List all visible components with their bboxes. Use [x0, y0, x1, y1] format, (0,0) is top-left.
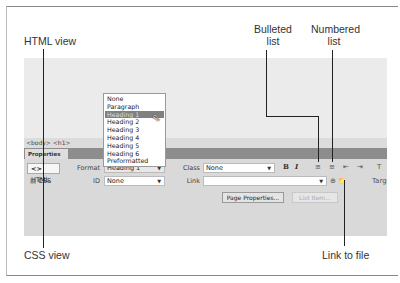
class-select[interactable]: None ▼: [203, 163, 275, 173]
properties-tab[interactable]: Properties: [25, 149, 68, 159]
callout-html-view: HTML view: [24, 35, 76, 47]
target-label: Targ: [372, 176, 387, 186]
format-label: Format: [74, 163, 100, 173]
leader-line-bulleted-c: [318, 116, 319, 162]
properties-panel: <> HTML ▤ CSS Format Heading 1 ▼ ID None…: [24, 159, 387, 236]
callout-numbered-line1: Numbered: [311, 23, 357, 35]
class-select-value: None: [206, 164, 223, 172]
link-label: Link: [176, 176, 200, 186]
callout-numbered-list: Numbered list: [311, 23, 357, 47]
title-label: T: [377, 162, 381, 172]
outdent-icon[interactable]: ⇤: [343, 162, 349, 172]
leader-line-html-css: [43, 49, 44, 248]
format-option-heading-3[interactable]: Heading 3: [105, 126, 164, 134]
numbered-list-icon[interactable]: ≡: [329, 162, 335, 172]
list-item-button[interactable]: List Item...: [292, 192, 338, 203]
callout-css-view: CSS view: [24, 249, 70, 261]
callout-bulleted-line2: list: [254, 35, 292, 47]
bold-button[interactable]: B: [283, 162, 289, 172]
callout-link-to-file: Link to file: [322, 249, 369, 261]
browse-folder-icon[interactable]: 📁: [338, 176, 347, 186]
class-label: Class: [176, 163, 200, 173]
format-option-heading-4[interactable]: Heading 4: [105, 134, 164, 142]
chevron-down-icon: ▼: [157, 177, 161, 185]
page-properties-button[interactable]: Page Properties...: [222, 192, 284, 203]
chevron-down-icon: ▼: [319, 177, 323, 185]
callout-bulleted-list: Bulleted list: [254, 23, 292, 47]
format-option-none[interactable]: None: [105, 95, 164, 103]
format-option-preformatted[interactable]: Preformatted: [105, 157, 164, 165]
chevron-down-icon: ▼: [267, 164, 271, 172]
format-option-paragraph[interactable]: Paragraph: [105, 103, 164, 111]
leader-line-link-to-file: [344, 180, 345, 246]
id-label: ID: [74, 176, 100, 186]
leader-line-bulleted-b: [266, 116, 319, 117]
id-select[interactable]: None ▼: [104, 176, 165, 186]
code-brackets-icon: <>: [31, 165, 42, 173]
leader-line-bulleted-a: [266, 50, 267, 117]
link-input[interactable]: ▼: [203, 176, 327, 186]
mouse-pointer-icon: ⬁: [152, 112, 160, 123]
css-icon: ▤: [30, 177, 36, 185]
format-option-heading-5[interactable]: Heading 5: [105, 142, 164, 150]
css-mode-label: CSS: [38, 177, 51, 185]
italic-button[interactable]: I: [295, 162, 298, 172]
leader-line-numbered: [332, 50, 333, 162]
id-select-value: None: [107, 177, 124, 185]
callout-numbered-line2: list: [311, 35, 357, 47]
point-to-file-icon[interactable]: ⊕: [330, 176, 336, 186]
format-dropdown[interactable]: None Paragraph Heading 1 Heading 2 Headi…: [103, 93, 166, 167]
callout-bulleted-line1: Bulleted: [254, 23, 292, 35]
format-option-heading-6[interactable]: Heading 6: [105, 150, 164, 158]
indent-icon[interactable]: ⇥: [357, 162, 363, 172]
bulleted-list-icon[interactable]: ≡: [315, 162, 321, 172]
